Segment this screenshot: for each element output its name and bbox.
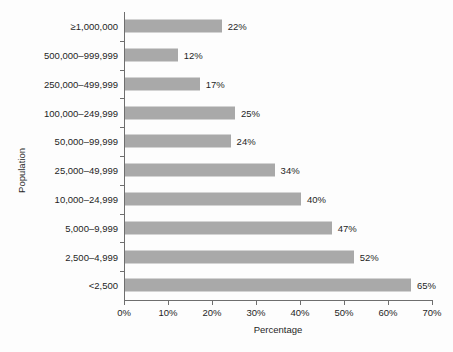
category-label: 2,500–4,999 [65,251,118,262]
category-label: 100,000–249,999 [44,107,118,118]
bar [125,250,354,263]
y-axis-tick [120,214,124,215]
y-axis-tick [120,127,124,128]
x-axis-tick [344,300,345,305]
bar-row: 250,000–499,99917% [124,70,432,98]
bar-value-label: 12% [184,49,203,60]
bar [125,192,301,205]
x-axis-tick [124,300,125,305]
bar-value-label: 25% [241,107,260,118]
y-axis-tick [120,41,124,42]
bar-value-label: 17% [206,78,225,89]
x-axis-tick-label: 50% [334,307,353,318]
bar-value-label: 40% [307,193,326,204]
x-axis-tick-label: 20% [202,307,221,318]
x-axis-tick-label: 40% [290,307,309,318]
y-axis-tick [120,156,124,157]
x-axis-tick-label: 10% [158,307,177,318]
bar-row: <2,50065% [124,271,432,299]
y-axis-tick [120,242,124,243]
bar-value-label: 22% [228,21,247,32]
bar [125,135,231,148]
bar-value-label: 47% [338,222,357,233]
bar [125,221,332,234]
bar [125,106,235,119]
y-axis-tick [120,271,124,272]
bar-value-label: 24% [237,136,256,147]
x-axis-tick [168,300,169,305]
bar-value-label: 52% [360,251,379,262]
bar [125,279,411,292]
category-label: 50,000–99,999 [55,136,118,147]
x-axis-tick [300,300,301,305]
bar-row: 10,000–24,99940% [124,185,432,213]
bar-row: 100,000–249,99925% [124,98,432,126]
category-label: 250,000–499,999 [44,78,118,89]
x-axis-line [124,300,433,301]
bar [125,48,178,61]
bar-row: ≥1,000,00022% [124,12,432,40]
y-axis-tick [120,70,124,71]
bar-value-label: 65% [417,280,436,291]
category-label: 25,000–49,999 [55,165,118,176]
category-label: ≥1,000,000 [71,21,118,32]
x-axis-tick-label: 70% [422,307,441,318]
bar [125,20,222,33]
x-axis-tick-label: 30% [246,307,265,318]
bar-row: 25,000–49,99934% [124,156,432,184]
y-axis-title-label: Population [16,148,27,193]
category-label: 5,000–9,999 [65,222,118,233]
bar [125,164,275,177]
y-axis-title: Population [12,130,30,210]
bar-value-label: 34% [281,165,300,176]
bar-row: 2,500–4,99952% [124,242,432,270]
x-axis-tick [256,300,257,305]
x-axis-title: Percentage [124,324,432,335]
x-axis-tick-label: 60% [378,307,397,318]
x-axis-tick-label: 0% [117,307,131,318]
bar-row: 500,000–999,99912% [124,41,432,69]
x-axis-tick [388,300,389,305]
y-axis-tick [120,98,124,99]
bar-chart-figure: Population ≥1,000,00022%500,000–999,9991… [0,0,453,352]
category-label: 500,000–999,999 [44,49,118,60]
bar-row: 5,000–9,99947% [124,214,432,242]
x-axis-tick [212,300,213,305]
category-label: <2,500 [89,280,118,291]
x-axis-tick [432,300,433,305]
bar-row: 50,000–99,99924% [124,127,432,155]
bar [125,77,200,90]
y-axis-tick [120,185,124,186]
plot-area: ≥1,000,00022%500,000–999,99912%250,000–4… [124,12,432,300]
category-label: 10,000–24,999 [55,193,118,204]
